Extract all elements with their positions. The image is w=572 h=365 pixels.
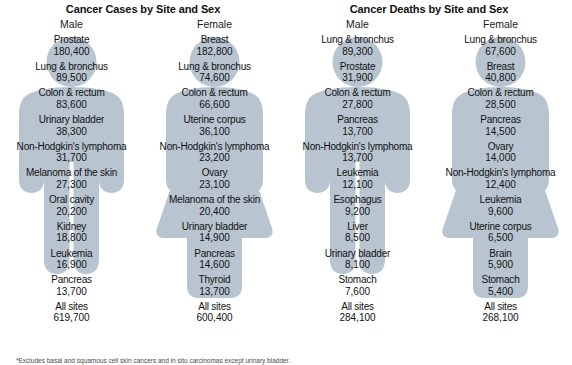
site-row: Kidney18,800 bbox=[0, 221, 143, 244]
site-value: 14,000 bbox=[429, 152, 572, 164]
site-name: Oral cavity bbox=[0, 194, 143, 206]
site-row: Breast182,800 bbox=[143, 34, 286, 57]
site-value: 38,300 bbox=[0, 126, 143, 138]
site-row: Stomach5,400 bbox=[429, 274, 572, 297]
panel-deaths: Cancer Deaths by Site and SexMale Lung &… bbox=[286, 0, 572, 364]
site-list: Lung & bronchus89,300Prostate31,900Colon… bbox=[286, 34, 429, 328]
site-value: 89,300 bbox=[286, 46, 429, 58]
site-value: 5,900 bbox=[429, 259, 572, 271]
site-row: Non-Hodgkin's lymphoma12,400 bbox=[429, 167, 572, 190]
site-name: Ovary bbox=[429, 141, 572, 153]
site-row: Melanoma of the skin20,400 bbox=[143, 194, 286, 217]
site-name: Melanoma of the skin bbox=[143, 194, 286, 206]
site-value: 74,600 bbox=[143, 72, 286, 84]
sex-label: Male bbox=[0, 18, 143, 30]
site-row-total: All sites284,100 bbox=[286, 301, 429, 324]
site-name: Colon & rectum bbox=[143, 87, 286, 99]
site-name: Colon & rectum bbox=[286, 87, 429, 99]
site-value: 67,600 bbox=[429, 46, 572, 58]
site-row: Non-Hodgkin's lymphoma23,200 bbox=[143, 141, 286, 164]
site-name: Colon & rectum bbox=[0, 87, 143, 99]
site-value: 14,900 bbox=[143, 232, 286, 244]
site-name: Colon & rectum bbox=[429, 87, 572, 99]
site-value: 268,100 bbox=[429, 312, 572, 324]
panel-title: Cancer Cases by Site and Sex bbox=[0, 3, 286, 15]
site-row: Lung & bronchus67,600 bbox=[429, 34, 572, 57]
site-name: Pancreas bbox=[429, 114, 572, 126]
site-row: Uterine corpus36,100 bbox=[143, 114, 286, 137]
site-row: Stomach7,600 bbox=[286, 274, 429, 297]
site-list: Lung & bronchus67,600Breast40,800Colon &… bbox=[429, 34, 572, 328]
site-name: Pancreas bbox=[286, 114, 429, 126]
site-value: 31,700 bbox=[0, 152, 143, 164]
site-name: Prostate bbox=[286, 61, 429, 73]
site-value: 13,700 bbox=[286, 152, 429, 164]
site-name: Lung & bronchus bbox=[143, 61, 286, 73]
site-value: 23,100 bbox=[143, 179, 286, 191]
site-value: 13,700 bbox=[286, 126, 429, 138]
site-value: 9,200 bbox=[286, 206, 429, 218]
site-row: Urinary bladder38,300 bbox=[0, 114, 143, 137]
site-row: Brain5,900 bbox=[429, 248, 572, 271]
site-row: Melanoma of the skin27,300 bbox=[0, 167, 143, 190]
site-row: Lung & bronchus89,300 bbox=[286, 34, 429, 57]
site-row: Non-Hodgkin's lymphoma13,700 bbox=[286, 141, 429, 164]
site-row: Leukemia12,100 bbox=[286, 167, 429, 190]
site-row: Colon & rectum28,500 bbox=[429, 87, 572, 110]
site-name: Kidney bbox=[0, 221, 143, 233]
site-name: Leukemia bbox=[429, 194, 572, 206]
site-value: 182,800 bbox=[143, 46, 286, 58]
site-value: 12,100 bbox=[286, 179, 429, 191]
site-value: 40,800 bbox=[429, 72, 572, 84]
site-name: Esophagus bbox=[286, 194, 429, 206]
site-name: Stomach bbox=[429, 274, 572, 286]
site-name: All sites bbox=[143, 301, 286, 313]
site-value: 89,500 bbox=[0, 72, 143, 84]
site-row: Oral cavity20,200 bbox=[0, 194, 143, 217]
column-cases-male: Male Prostate180,400Lung & bronchus89,50… bbox=[0, 18, 143, 364]
site-value: 9,600 bbox=[429, 206, 572, 218]
site-name: Melanoma of the skin bbox=[0, 167, 143, 179]
sex-label: Female bbox=[143, 18, 286, 30]
site-name: Prostate bbox=[0, 34, 143, 46]
site-row-total: All sites268,100 bbox=[429, 301, 572, 324]
site-name: Ovary bbox=[143, 167, 286, 179]
site-value: 16,900 bbox=[0, 259, 143, 271]
site-value: 8,100 bbox=[286, 259, 429, 271]
site-value: 20,200 bbox=[0, 206, 143, 218]
site-value: 14,500 bbox=[429, 126, 572, 138]
site-value: 600,400 bbox=[143, 312, 286, 324]
site-name: All sites bbox=[0, 301, 143, 313]
site-value: 27,300 bbox=[0, 179, 143, 191]
site-value: 66,600 bbox=[143, 99, 286, 111]
site-row: Uterine corpus6,500 bbox=[429, 221, 572, 244]
site-name: Lung & bronchus bbox=[0, 61, 143, 73]
site-row: Colon & rectum83,600 bbox=[0, 87, 143, 110]
site-value: 6,500 bbox=[429, 232, 572, 244]
site-value: 20,400 bbox=[143, 206, 286, 218]
site-name: Urinary bladder bbox=[286, 248, 429, 260]
site-value: 31,900 bbox=[286, 72, 429, 84]
site-row: Ovary14,000 bbox=[429, 141, 572, 164]
site-value: 28,500 bbox=[429, 99, 572, 111]
site-value: 5,400 bbox=[429, 286, 572, 298]
site-row: Breast40,800 bbox=[429, 61, 572, 84]
site-row-total: All sites600,400 bbox=[143, 301, 286, 324]
site-value: 27,800 bbox=[286, 99, 429, 111]
site-name: Stomach bbox=[286, 274, 429, 286]
site-name: Urinary bladder bbox=[143, 221, 286, 233]
site-name: Leukemia bbox=[286, 167, 429, 179]
site-name: Urinary bladder bbox=[0, 114, 143, 126]
site-list: Prostate180,400Lung & bronchus89,500Colo… bbox=[0, 34, 143, 328]
site-row: Liver8,500 bbox=[286, 221, 429, 244]
site-value: 180,400 bbox=[0, 46, 143, 58]
site-name: Pancreas bbox=[0, 274, 143, 286]
site-value: 8,500 bbox=[286, 232, 429, 244]
site-row: Urinary bladder14,900 bbox=[143, 221, 286, 244]
site-value: 13,700 bbox=[0, 286, 143, 298]
site-name: Leukemia bbox=[0, 248, 143, 260]
site-name: Non-Hodgkin's lymphoma bbox=[286, 141, 429, 153]
site-row: Pancreas14,500 bbox=[429, 114, 572, 137]
site-name: Lung & bronchus bbox=[286, 34, 429, 46]
site-value: 13,700 bbox=[143, 286, 286, 298]
